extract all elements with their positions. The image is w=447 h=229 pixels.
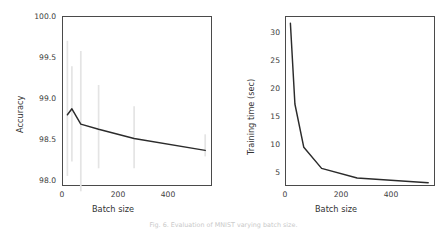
- y-tick-label: 99.0: [18, 94, 56, 103]
- x-tick-label: 0: [54, 190, 70, 199]
- figure-container: Accuracy 100.0 99.5 99.0 98.5 98.0 0 200…: [0, 0, 447, 229]
- y-tick-label: 15: [256, 112, 280, 121]
- x-tick-label: 400: [380, 190, 402, 199]
- plot-frame-training-time: [285, 16, 435, 186]
- y-tick-label: 98.0: [18, 176, 56, 185]
- y-tick-label: 98.5: [18, 135, 56, 144]
- data-line-accuracy: [67, 109, 205, 151]
- y-tick-label: 25: [256, 56, 280, 65]
- x-tick-label: 0: [277, 190, 293, 199]
- plot-canvas-accuracy: [63, 17, 213, 187]
- chart-panel-accuracy: Accuracy 100.0 99.5 99.0 98.5 98.0 0 200…: [0, 0, 224, 229]
- y-tick-label: 100.0: [18, 12, 56, 21]
- y-tick-label: 20: [256, 84, 280, 93]
- y-tick-label: 10: [256, 140, 280, 149]
- chart-panel-training-time: Training time (sec) 30 25 20 15 10 5 0 2…: [224, 0, 447, 229]
- plot-frame-accuracy: [62, 16, 212, 186]
- data-line-training-time: [290, 23, 428, 182]
- y-tick-label: 99.5: [18, 53, 56, 62]
- y-axis-label-training-time: Training time (sec): [246, 79, 256, 155]
- x-axis-label-batch-size: Batch size: [315, 204, 357, 214]
- y-tick-label: 5: [256, 168, 280, 177]
- y-tick-label: 30: [256, 28, 280, 37]
- x-axis-label-batch-size: Batch size: [92, 204, 134, 214]
- plot-canvas-training-time: [286, 17, 436, 187]
- x-tick-label: 400: [157, 190, 179, 199]
- figure-caption: Fig. 6. Evaluation of MNIST varying batc…: [0, 221, 447, 229]
- x-tick-label: 200: [107, 190, 129, 199]
- x-tick-label: 200: [330, 190, 352, 199]
- errorbar-group: [67, 41, 205, 192]
